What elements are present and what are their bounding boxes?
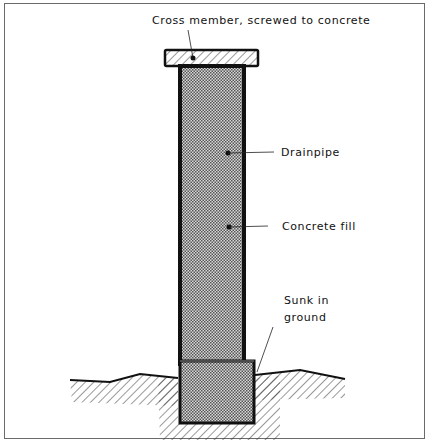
post-cross-section-drawing bbox=[0, 0, 430, 445]
sunk-in-ground-label-line2: ground bbox=[284, 311, 327, 324]
sunk-sleeve bbox=[180, 361, 254, 423]
drainpipe-label: Drainpipe bbox=[281, 146, 340, 159]
sunk-in-ground-label-line1: Sunk in bbox=[284, 294, 329, 307]
cross-member-label: Cross member, screwed to concrete bbox=[152, 14, 370, 27]
cross-member bbox=[165, 50, 258, 66]
drainpipe-column bbox=[180, 66, 244, 364]
concrete-fill-label: Concrete fill bbox=[282, 220, 356, 233]
